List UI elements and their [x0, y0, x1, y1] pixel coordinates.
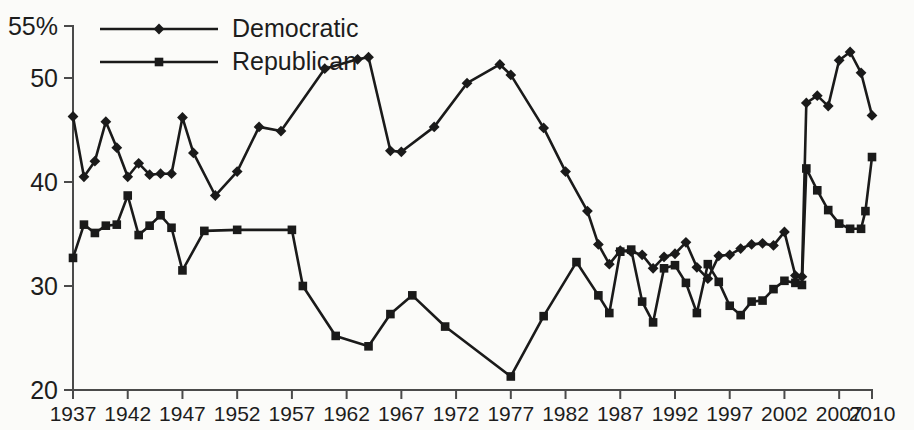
legend-label: Republican: [232, 47, 357, 75]
series-polyline: [73, 157, 872, 376]
data-point-marker: [363, 52, 374, 63]
data-point-marker: [156, 211, 165, 220]
y-axis-tick-label: 50: [30, 64, 58, 92]
data-point-marker: [69, 254, 78, 263]
data-point-marker: [299, 282, 308, 291]
chart-legend: DemocraticRepublican: [100, 14, 358, 75]
data-point-marker: [572, 258, 581, 267]
data-point-marker: [539, 312, 548, 321]
data-point-marker: [713, 250, 724, 261]
data-point-marker: [798, 281, 807, 290]
data-point-marker: [233, 226, 242, 235]
y-axis: 2030405055%: [8, 12, 73, 404]
legend-marker-square: [155, 58, 164, 67]
data-point-marker: [660, 264, 669, 273]
data-point-marker: [288, 226, 297, 235]
data-point-marker: [155, 168, 166, 179]
data-point-marker: [386, 310, 395, 319]
data-point-marker: [746, 239, 757, 250]
legend-item-democratic: Democratic: [100, 14, 358, 42]
data-point-marker: [177, 112, 188, 123]
data-point-marker: [758, 296, 767, 305]
data-point-marker: [254, 121, 265, 132]
data-point-marker: [441, 322, 450, 331]
data-point-marker: [682, 279, 691, 288]
data-point-marker: [757, 238, 768, 249]
x-axis-tick-label: 1997: [706, 402, 753, 425]
data-point-marker: [188, 147, 199, 158]
data-point-marker: [824, 206, 833, 215]
x-axis-tick-label: 1972: [433, 402, 480, 425]
data-point-marker: [747, 297, 756, 306]
data-point-marker: [724, 249, 735, 260]
data-point-marker: [846, 225, 855, 234]
x-axis-tick-label: 1952: [214, 402, 261, 425]
data-point-marker: [100, 116, 111, 127]
data-point-marker: [867, 110, 878, 121]
x-axis-tick-label: 1937: [50, 402, 97, 425]
data-point-marker: [835, 219, 844, 228]
data-point-marker: [200, 227, 209, 236]
series-democratic: [68, 47, 878, 285]
data-point-marker: [178, 266, 187, 275]
y-axis-tick-label: 30: [30, 272, 58, 300]
data-point-marker: [102, 221, 111, 230]
data-point-marker: [704, 260, 713, 269]
data-point-marker: [91, 229, 100, 238]
x-axis-tick-label: 1987: [597, 402, 644, 425]
data-point-marker: [736, 311, 745, 320]
legend-item-republican: Republican: [100, 47, 357, 75]
data-point-marker: [868, 153, 877, 162]
series-republican: [69, 153, 877, 381]
data-series-group: [68, 47, 878, 381]
data-point-marker: [582, 206, 593, 217]
data-point-marker: [861, 207, 870, 216]
x-axis-tick-label: 1982: [542, 402, 589, 425]
x-axis-tick-label: 1947: [159, 402, 206, 425]
data-point-marker: [364, 342, 373, 351]
data-point-marker: [145, 221, 154, 230]
data-point-marker: [331, 332, 340, 341]
x-axis-tick-label: 1942: [104, 402, 151, 425]
party-identification-chart: 2030405055% 1937194219471952195719621967…: [0, 0, 914, 430]
x-axis: 1937194219471952195719621967197219771982…: [50, 390, 896, 425]
data-point-marker: [408, 291, 417, 300]
data-point-marker: [638, 297, 647, 306]
data-point-marker: [616, 247, 625, 256]
data-point-marker: [693, 309, 702, 318]
data-point-marker: [714, 278, 723, 287]
x-axis-tick-label: 1992: [652, 402, 699, 425]
y-axis-tick-label: 40: [30, 168, 58, 196]
chart-canvas: 2030405055% 1937194219471952195719621967…: [0, 0, 914, 430]
legend-marker-diamond: [154, 24, 165, 35]
data-point-marker: [112, 220, 121, 229]
x-axis-tick-label: 1957: [269, 402, 316, 425]
data-point-marker: [166, 168, 177, 179]
data-point-marker: [813, 186, 822, 195]
x-axis-tick-label: 1977: [487, 402, 534, 425]
data-point-marker: [68, 111, 79, 122]
y-axis-tick-label: 20: [30, 376, 58, 404]
data-point-marker: [560, 166, 571, 177]
data-point-marker: [671, 261, 680, 270]
data-point-marker: [649, 318, 658, 327]
x-axis-tick-label: 1962: [323, 402, 370, 425]
x-axis-tick-label: 2002: [761, 402, 808, 425]
data-point-marker: [134, 231, 143, 240]
data-point-marker: [507, 372, 516, 381]
data-point-marker: [735, 243, 746, 254]
data-point-marker: [725, 301, 734, 310]
data-point-marker: [167, 223, 176, 232]
y-axis-tick-label: 55%: [8, 12, 58, 40]
legend-label: Democratic: [232, 14, 358, 42]
data-point-marker: [385, 145, 396, 156]
x-axis-tick-label: 1967: [378, 402, 425, 425]
data-point-marker: [605, 309, 614, 318]
data-point-marker: [769, 285, 778, 294]
data-point-marker: [80, 220, 89, 229]
data-point-marker: [594, 291, 603, 300]
x-axis-tick-label: 2010: [849, 402, 896, 425]
data-point-marker: [857, 225, 866, 234]
data-point-marker: [123, 191, 132, 200]
data-point-marker: [111, 142, 122, 153]
